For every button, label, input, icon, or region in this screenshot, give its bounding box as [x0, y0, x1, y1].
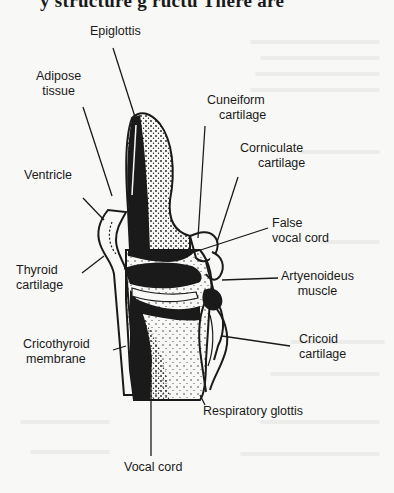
label-respiratory-glottis: Respiratory glottis [203, 404, 303, 419]
label-adipose-tissue: Adipose tissue [36, 69, 81, 99]
label-ventricle: Ventricle [24, 168, 72, 183]
label-artyenoideus-muscle: Artyenoideus muscle [281, 269, 354, 299]
epiglottis-shape [126, 113, 190, 250]
label-corniculate-cartilage: Corniculate cartilage [240, 141, 305, 171]
label-cricothyroid-membrane: Cricothyroid membrane [23, 337, 90, 367]
label-false-vocal-cord: False vocal cord [272, 216, 329, 246]
label-thyroid-cartilage: Thyroid cartilage [16, 263, 63, 293]
book-page: y structure g ructu There are [0, 0, 394, 493]
label-vocal-cord: Vocal cord [124, 460, 182, 475]
label-cuneiform-cartilage: Cuneiform cartilage [207, 93, 266, 123]
label-epiglottis: Epiglottis [90, 24, 141, 39]
label-cricoid-cartilage: Cricoid cartilage [299, 332, 346, 362]
